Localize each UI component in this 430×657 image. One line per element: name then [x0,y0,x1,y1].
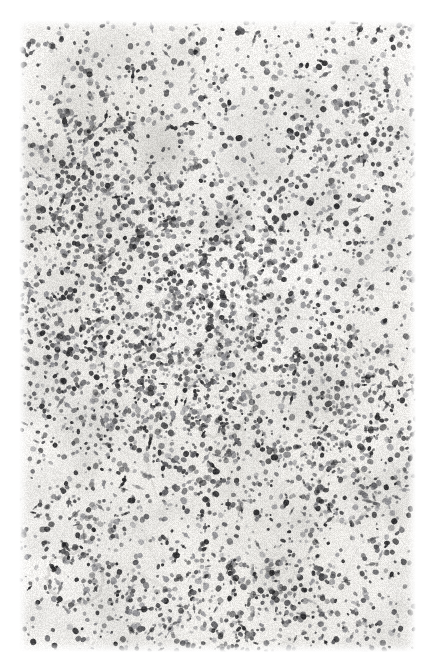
micrograph-figure: Histological section photomicrograph Low… [0,0,430,657]
histology-micrograph-image [0,0,430,657]
